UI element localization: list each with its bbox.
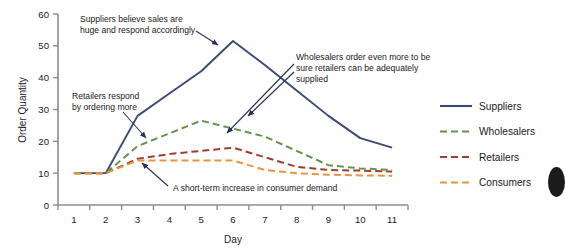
retailers-note-line-2: by ordering more: [72, 102, 137, 112]
series-line-consumers: [74, 160, 392, 175]
y-tick-label: 30: [38, 104, 49, 115]
consumers-note-line-1: A short-term increase in consumer demand: [173, 183, 338, 193]
y-tick-label: 60: [38, 9, 49, 20]
y-tick-label: 20: [38, 136, 49, 147]
legend-label-wholesalers: Wholesalers: [479, 126, 535, 137]
wholesalers-note-line-2: sure retailers can be adequately: [296, 63, 419, 73]
legend-label-suppliers: Suppliers: [479, 101, 521, 112]
legend: SuppliersWholesalersRetailersConsumers: [440, 101, 535, 189]
x-tick-label: 5: [199, 214, 204, 225]
retailers-note-line-1: Retailers respond: [72, 91, 140, 101]
suppliers-note-leader: [196, 31, 218, 45]
y-tick-label: 0: [44, 200, 49, 211]
consumers-note-leader: [142, 163, 168, 186]
y-tick-label: 50: [38, 40, 49, 51]
series-line-retailers: [74, 148, 392, 173]
wholesalers-note-line-1: Wholesalers order even more to be: [296, 52, 430, 62]
x-tick-label: 4: [167, 214, 173, 225]
x-tick-label: 3: [135, 214, 140, 225]
x-axis-title: Day: [224, 234, 242, 245]
x-tick-label: 1: [71, 214, 76, 225]
suppliers-note-line-2: huge and respond accordingly: [80, 25, 196, 35]
x-tick-label: 8: [294, 214, 299, 225]
wholesalers-note-leader-retail: [227, 64, 294, 133]
x-tick-label: 9: [326, 214, 331, 225]
y-tick-label: 10: [38, 168, 49, 179]
x-tick-label: 6: [230, 214, 235, 225]
y-axis-title: Order Quantity: [17, 77, 28, 143]
y-tick-label: 40: [38, 72, 49, 83]
y-axis-tick-labels: 0102030405060: [38, 9, 49, 211]
x-tick-label: 11: [387, 214, 397, 225]
wholesalers-note-leader-green: [248, 72, 294, 116]
x-axis-tick-labels: 1234567891011: [71, 214, 397, 225]
legend-label-retailers: Retailers: [479, 152, 519, 163]
retailers-note: Retailers respond by ordering more: [72, 91, 140, 112]
suppliers-note-line-1: Suppliers believe sales are: [80, 14, 183, 24]
wholesalers-note: Wholesalers order even more to be sure r…: [296, 52, 430, 84]
wholesalers-note-line-3: supplied: [296, 74, 328, 84]
x-tick-label: 7: [262, 214, 267, 225]
legend-label-consumers: Consumers: [479, 177, 531, 188]
page-edge-artifact: [548, 167, 565, 197]
x-tick-label: 10: [355, 214, 366, 225]
x-tick-label: 2: [103, 214, 108, 225]
suppliers-note: Suppliers believe sales are huge and res…: [80, 14, 196, 35]
